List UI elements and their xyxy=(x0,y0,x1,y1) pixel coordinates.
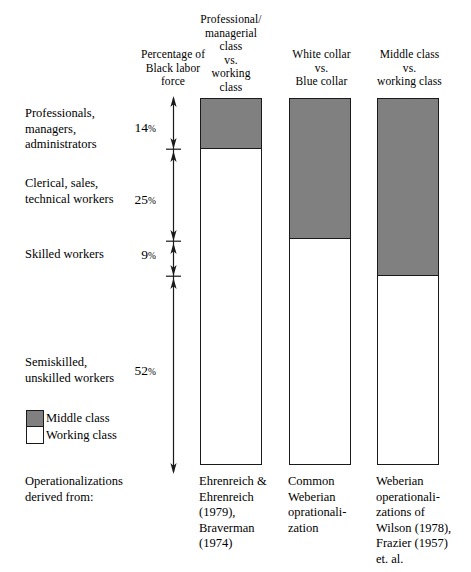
legend-item-working-class: Working class xyxy=(26,427,186,444)
legend-swatch-middle-class-icon xyxy=(26,410,44,427)
column-header-professional-managerial: Professional/ managerial class vs. worki… xyxy=(196,13,266,94)
footer-source-col3: Weberian operationali- zations of Wilson… xyxy=(376,474,468,567)
bar-segment-middle-class xyxy=(201,99,261,149)
percent-symbol: % xyxy=(148,251,156,261)
footer-source-col2: Common Weberian oprationali- zation xyxy=(288,474,370,536)
percent-value-clerical: 25% xyxy=(110,192,156,209)
bar-white-blue-collar xyxy=(289,98,351,465)
bar-segment-middle-class xyxy=(290,99,350,239)
percent-number: 52 xyxy=(135,363,149,378)
bar-middle-working-class xyxy=(377,98,439,465)
legend-swatch-working-class-icon xyxy=(26,427,44,444)
legend-label-working-class: Working class xyxy=(44,428,117,443)
percent-number: 25 xyxy=(135,192,149,207)
percent-symbol: % xyxy=(148,367,156,377)
bar-segment-working-class xyxy=(201,149,261,464)
bar-segment-working-class xyxy=(290,239,350,464)
footer-source-col1: Ehrenreich & Ehrenreich (1979), Braverma… xyxy=(199,474,289,552)
bar-segment-working-class xyxy=(378,276,438,464)
percent-value-semiskilled: 52% xyxy=(110,363,156,380)
class-operationalization-figure: Percentage of Black labor force Professi… xyxy=(0,0,471,572)
percent-symbol: % xyxy=(148,124,156,134)
bar-professional-managerial xyxy=(200,98,262,465)
percent-value-skilled: 9% xyxy=(110,247,156,264)
legend-label-middle-class: Middle class xyxy=(44,411,110,426)
column-header-middle-working-class: Middle class vs. working class xyxy=(372,48,447,89)
column-header-white-blue-collar: White collar vs. Blue collar xyxy=(284,48,359,89)
percent-value-professionals: 14% xyxy=(110,120,156,137)
legend: Middle class Working class xyxy=(26,410,186,444)
legend-item-middle-class: Middle class xyxy=(26,410,186,427)
bar-segment-middle-class xyxy=(378,99,438,276)
percent-number: 14 xyxy=(135,120,149,135)
percent-symbol: % xyxy=(148,196,156,206)
footer-lead-label: Operationalizations derived from: xyxy=(25,474,175,505)
